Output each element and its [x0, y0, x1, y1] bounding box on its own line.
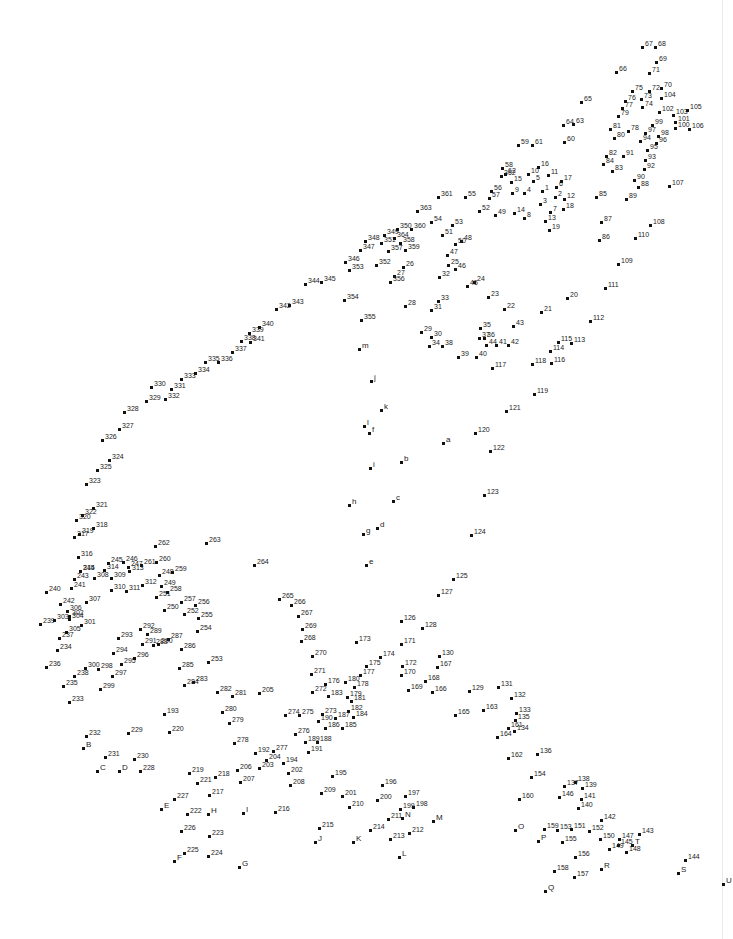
puzzle-dot-label: 77	[625, 101, 633, 108]
puzzle-dot	[580, 101, 583, 104]
puzzle-dot	[470, 534, 473, 537]
puzzle-dot	[537, 840, 540, 843]
puzzle-dot-label: b	[404, 455, 408, 462]
puzzle-dot-label: 98	[661, 129, 669, 136]
puzzle-dot	[518, 798, 521, 801]
puzzle-dot-label: 115	[561, 335, 572, 342]
puzzle-dot	[180, 601, 183, 604]
puzzle-dot	[556, 829, 559, 832]
puzzle-dot-label: 188	[320, 735, 332, 742]
puzzle-dot-label: 265	[282, 592, 294, 599]
puzzle-dot-label: 37	[482, 331, 490, 338]
puzzle-dot-label: 11	[551, 168, 558, 175]
puzzle-dot-label: 35	[483, 321, 491, 328]
puzzle-dot-label: 152	[592, 824, 604, 831]
puzzle-dot-label: 140	[581, 801, 593, 808]
puzzle-dot	[97, 668, 100, 671]
puzzle-dot-label: U	[726, 877, 732, 884]
puzzle-dot	[604, 287, 607, 290]
puzzle-dot	[389, 281, 392, 284]
puzzle-dot	[658, 111, 661, 114]
puzzle-dot-label: 275	[302, 708, 314, 715]
puzzle-dot-label: 104	[664, 91, 676, 98]
puzzle-dot-label: 63	[576, 117, 584, 124]
puzzle-dot-label: 263	[209, 536, 221, 543]
puzzle-dot	[348, 806, 351, 809]
puzzle-dot	[507, 757, 510, 760]
puzzle-dot-label: 24	[477, 275, 485, 282]
puzzle-dot	[110, 577, 113, 580]
puzzle-dot-label: d	[380, 521, 384, 528]
puzzle-dot	[487, 296, 490, 299]
puzzle-dot	[672, 114, 675, 117]
puzzle-dot	[543, 828, 546, 831]
puzzle-canvas: 1234567891011121314151617181920212223242…	[0, 0, 733, 939]
puzzle-dot	[644, 132, 647, 135]
puzzle-dot-label: 307	[89, 595, 101, 602]
puzzle-dot-label: 57	[492, 191, 500, 198]
puzzle-dot-label: 158	[557, 864, 569, 871]
puzzle-dot-label: 96	[659, 136, 667, 143]
puzzle-dot-label: 204	[269, 753, 281, 760]
puzzle-dot-label: 227	[177, 792, 189, 799]
puzzle-dot-label: 166	[435, 685, 447, 692]
puzzle-dot	[400, 620, 403, 623]
puzzle-dot-label: 304	[72, 612, 84, 619]
puzzle-dot-label: 65	[584, 95, 592, 102]
puzzle-dot	[125, 590, 128, 593]
puzzle-dot-label: 93	[648, 153, 656, 160]
puzzle-dot-label: 327	[122, 422, 134, 429]
puzzle-dot-label: 280	[225, 705, 237, 712]
puzzle-dot	[311, 655, 314, 658]
puzzle-dot-label: 121	[509, 404, 521, 411]
puzzle-dot-label: 324	[112, 453, 124, 460]
puzzle-dot-label: 56	[494, 184, 502, 191]
puzzle-dot	[627, 130, 630, 133]
puzzle-dot	[99, 688, 102, 691]
puzzle-dot-label: 143	[642, 827, 654, 834]
puzzle-dot-label: 40	[479, 350, 487, 357]
puzzle-dot-label: m	[362, 342, 369, 349]
puzzle-dot-label: 222	[190, 807, 202, 814]
puzzle-dot-label: 256	[198, 598, 210, 605]
puzzle-dot-label: K	[356, 835, 361, 842]
puzzle-dot-label: 14	[517, 206, 525, 213]
puzzle-dot	[364, 240, 367, 243]
puzzle-dot	[633, 179, 636, 182]
puzzle-dot	[408, 832, 411, 835]
puzzle-dot-label: 316	[81, 550, 93, 557]
puzzle-dot-label: g	[366, 527, 370, 534]
puzzle-dot-label: 303	[57, 613, 69, 620]
puzzle-dot	[369, 467, 372, 470]
puzzle-dot-label: 113	[574, 336, 585, 343]
puzzle-dot	[214, 776, 217, 779]
puzzle-dot	[73, 578, 76, 581]
puzzle-dot-label: 225	[187, 846, 199, 853]
puzzle-dot-label: 216	[278, 805, 290, 812]
puzzle-dot	[389, 838, 392, 841]
puzzle-dot	[236, 769, 239, 772]
puzzle-dot-label: 346	[348, 255, 360, 262]
puzzle-dot	[217, 361, 220, 364]
puzzle-dot-label: 153	[560, 823, 572, 830]
puzzle-dot-label: 167	[440, 660, 452, 667]
puzzle-dot-label: 203	[262, 761, 274, 768]
puzzle-dot	[228, 722, 231, 725]
puzzle-dot	[188, 772, 191, 775]
puzzle-dot	[205, 542, 208, 545]
puzzle-dot-label: F	[177, 854, 182, 861]
puzzle-dot-label: 90	[637, 173, 645, 180]
puzzle-dot	[641, 106, 644, 109]
puzzle-dot-label: 197	[408, 789, 420, 796]
puzzle-dot-label: 31	[434, 303, 442, 310]
puzzle-dot-label: 173	[359, 635, 371, 642]
puzzle-dot-label: 111	[608, 281, 619, 288]
puzzle-dot-label: M	[436, 814, 443, 821]
puzzle-dot-label: 359	[408, 243, 420, 250]
puzzle-dot	[152, 644, 155, 647]
puzzle-dot-label: 114	[553, 344, 564, 351]
puzzle-dot	[442, 442, 445, 445]
puzzle-dot-label: 106	[692, 122, 704, 129]
puzzle-dot	[375, 264, 378, 267]
puzzle-dot-label: 146	[562, 790, 574, 797]
